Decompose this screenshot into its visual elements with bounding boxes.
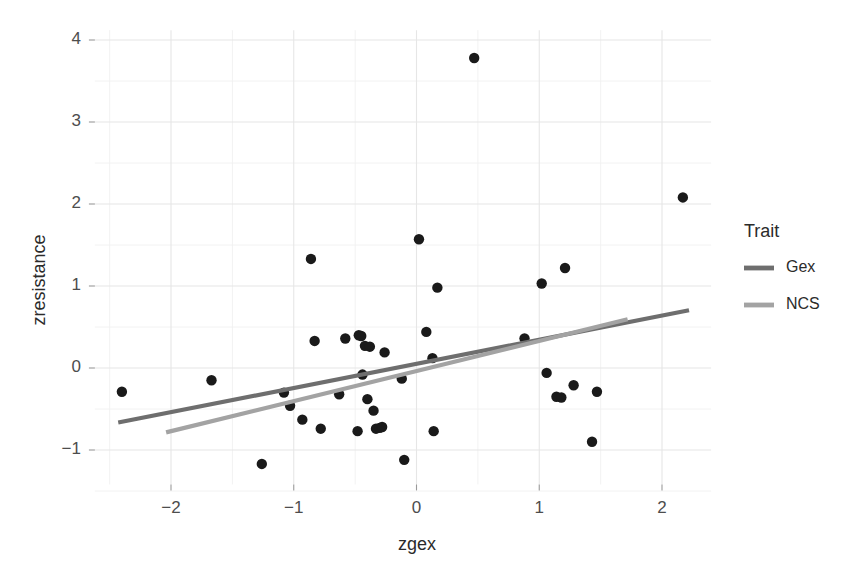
data-point	[421, 327, 431, 337]
y-axis-title: zresistance	[29, 234, 49, 325]
y-tick-label: 0	[71, 357, 80, 376]
data-point	[399, 455, 409, 465]
data-point	[368, 405, 378, 415]
data-point	[592, 387, 602, 397]
data-point	[377, 422, 387, 432]
data-point	[257, 459, 267, 469]
y-tick-label: 3	[71, 111, 80, 130]
data-point	[117, 387, 127, 397]
data-point	[206, 375, 216, 385]
scatter-plot-figure: −2−1012 −101234 zgex zresistance Trait G…	[0, 0, 861, 588]
data-point	[379, 347, 389, 357]
x-axis-title: zgex	[398, 534, 436, 554]
data-point	[678, 192, 688, 202]
legend-title: Trait	[744, 221, 779, 241]
data-point	[469, 53, 479, 63]
data-point	[362, 394, 372, 404]
y-tick-label: 4	[71, 29, 80, 48]
legend-label-gex[interactable]: Gex	[786, 258, 815, 275]
x-tick-label: 1	[535, 498, 544, 517]
data-point	[306, 254, 316, 264]
x-tick-label: 0	[412, 498, 421, 517]
data-point	[365, 341, 375, 351]
data-point	[432, 282, 442, 292]
legend-key-gex[interactable]	[744, 266, 774, 271]
data-point	[541, 368, 551, 378]
data-point	[568, 380, 578, 390]
legend-label-ncs[interactable]: NCS	[786, 295, 820, 312]
data-point	[316, 423, 326, 433]
data-point	[537, 278, 547, 288]
data-point	[414, 234, 424, 244]
data-point	[297, 414, 307, 424]
plot-svg: −2−1012 −101234 zgex zresistance Trait G…	[0, 0, 861, 588]
figure-background	[0, 0, 861, 588]
x-tick-label: −2	[161, 498, 180, 517]
y-tick-label: 2	[71, 193, 80, 212]
data-point	[309, 336, 319, 346]
x-tick-label: −1	[284, 498, 303, 517]
data-point	[428, 426, 438, 436]
x-tick-label: 2	[657, 498, 666, 517]
data-point	[340, 333, 350, 343]
data-point	[352, 426, 362, 436]
y-tick-label: 1	[71, 275, 80, 294]
data-point	[587, 437, 597, 447]
data-point	[560, 263, 570, 273]
y-tick-label: −1	[62, 439, 81, 458]
data-point	[356, 331, 366, 341]
legend-key-ncs[interactable]	[744, 303, 774, 308]
data-point	[556, 392, 566, 402]
